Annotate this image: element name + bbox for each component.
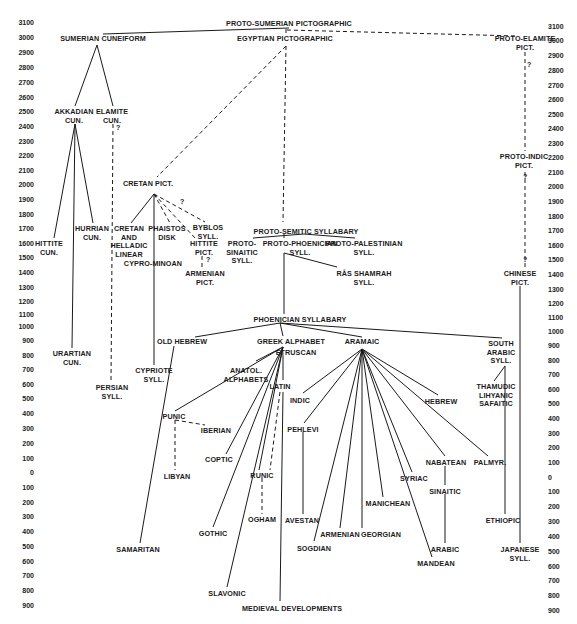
right-axis-tick: 1800 [548, 213, 577, 220]
node-label-line: RUNIC [250, 472, 273, 481]
node-georgian: GEORGIAN [361, 531, 401, 540]
right-axis-tick: 1700 [548, 227, 577, 234]
right-axis-tick: 2500 [548, 111, 577, 118]
right-axis-tick: 600 [548, 386, 577, 393]
left-axis-tick: 800 [4, 352, 34, 359]
left-axis-tick: 900 [4, 337, 34, 344]
genealogy-edges [0, 0, 577, 624]
derivation-line [280, 323, 502, 338]
node-label-line: LINEAR [110, 251, 147, 260]
node-proto-sumerian: PROTO-SUMERIAN PICTOGRAPHIC [226, 20, 352, 29]
right-axis-tick: 2100 [548, 169, 577, 176]
node-runic: RUNIC [250, 472, 273, 481]
right-axis-tick: 1500 [548, 256, 577, 263]
uncertainty-question-mark: ? [523, 256, 527, 263]
node-hurrian: HURRIANCUN. [75, 225, 109, 242]
node-label-line: EGYPTIAN PICTOGRAPHIC [237, 35, 333, 44]
node-phoenician: PHOENICIAN SYLLABARY [254, 316, 347, 325]
left-axis-tick: 2900 [4, 49, 34, 56]
right-axis-tick: 900 [548, 607, 577, 614]
node-label-line: GOTHIC [199, 530, 228, 539]
derivation-line [97, 45, 113, 106]
left-axis-tick: 200 [4, 499, 34, 506]
right-axis-tick: 2900 [548, 52, 577, 59]
node-elamite: ELAMITECUN. [96, 108, 128, 125]
derivation-line [340, 349, 362, 528]
left-axis-tick: 500 [4, 395, 34, 402]
derivation-line [131, 194, 154, 223]
node-coptic: COPTIC [205, 456, 233, 465]
derivation-line [75, 124, 93, 223]
right-axis-tick: 800 [548, 592, 577, 599]
node-palmyr: PALMYR. [474, 459, 507, 468]
node-cretan: CRETAN PICT. [123, 180, 173, 189]
right-axis-tick: 2700 [548, 82, 577, 89]
node-label-line: PROTO-SEMITIC SYLLABARY [254, 228, 359, 237]
left-axis-tick: 200 [4, 440, 34, 447]
left-axis-tick: 2800 [4, 64, 34, 71]
node-label-line: SLAVONIC [208, 590, 245, 599]
node-proto-sinaitic: PROTO-SINAITICSYLL. [226, 240, 258, 266]
node-thamudic: THAMUDICLIHYANICSAFAITIC [476, 383, 515, 409]
node-label-line: PEHLEVI [287, 426, 318, 435]
node-greek: GREEK ALPHABET [257, 338, 325, 347]
derivation-line [362, 349, 432, 557]
left-axis-tick: 1100 [4, 311, 34, 318]
left-axis-tick: 2000 [4, 181, 34, 188]
node-medieval: MEDIEVAL DEVELOPMENTS [242, 605, 342, 614]
node-armenian-pict: ARMENIANPICT. [185, 270, 225, 287]
node-label-line: DISK [148, 234, 185, 243]
node-label-line: SYLL. [500, 555, 539, 564]
left-axis-tick: 900 [4, 602, 34, 609]
node-proto-indic: PROTO-INDICPICT. [500, 153, 549, 170]
derivation-line [54, 124, 75, 238]
left-axis-tick: 400 [4, 410, 34, 417]
node-anatol: ANATOL.ALPHABETS [224, 367, 269, 384]
right-axis-tick: 1400 [548, 271, 577, 278]
derivation-line [494, 366, 505, 381]
left-axis-tick: 1300 [4, 284, 34, 291]
left-axis-tick: 500 [4, 543, 34, 550]
node-proto-elamite: PROTO-ELAMITEPICT. [495, 35, 556, 52]
uncertainty-question-mark: ? [206, 256, 210, 263]
node-label-line: COPTIC [205, 456, 233, 465]
node-label-line: PROTO-SUMERIAN PICTOGRAPHIC [226, 20, 352, 29]
left-axis-tick: 300 [4, 513, 34, 520]
node-latin: LATIN [269, 383, 290, 392]
right-axis-tick: 0 [548, 474, 577, 481]
left-axis-tick: 2200 [4, 152, 34, 159]
derivation-line [362, 349, 438, 395]
derivation-line [314, 349, 362, 541]
node-label-line: SUMERIAN CUNEIFORM [60, 35, 146, 44]
left-axis-tick: 400 [4, 528, 34, 535]
node-cypro-minoan: CYPRO-MINOAN [124, 260, 182, 269]
node-proto-semitic: PROTO-SEMITIC SYLLABARY [254, 228, 359, 237]
node-label-line: SYLL. [96, 393, 129, 402]
right-axis-tick: 2000 [548, 183, 577, 190]
right-axis-tick: 100 [548, 488, 577, 495]
node-cretan-helladic: CRETANANDHELLADICLINEAR [110, 225, 147, 259]
node-label-line: ARAMAIC [345, 338, 380, 347]
node-aramaic: ARAMAIC [345, 338, 380, 347]
right-axis-tick: 1900 [548, 198, 577, 205]
right-axis-tick: 1600 [548, 242, 577, 249]
node-label-line: PHOENICIAN SYLLABARY [254, 316, 347, 325]
right-axis-tick: 700 [548, 577, 577, 584]
node-label-line: PICT. [504, 279, 537, 288]
uncertain-derivation-line [283, 46, 286, 222]
node-label-line: MEDIEVAL DEVELOPMENTS [242, 605, 342, 614]
left-axis-tick: 1200 [4, 298, 34, 305]
right-axis-tick: 2300 [548, 140, 577, 147]
left-axis-tick: 700 [4, 572, 34, 579]
derivation-line [226, 347, 283, 454]
left-axis-tick: 1400 [4, 269, 34, 276]
node-label-line: HEBREW [425, 398, 458, 407]
uncertainty-question-mark: ? [523, 173, 527, 180]
node-persian: PERSIANSYLL. [96, 384, 129, 401]
left-axis-tick: 1700 [4, 225, 34, 232]
node-cypriote: CYPRIOTESYLL. [135, 367, 173, 384]
left-axis-tick: 3100 [4, 19, 34, 26]
right-axis-tick: 500 [548, 400, 577, 407]
node-label-line: ETRUSCAN [276, 349, 317, 358]
right-axis-tick: 700 [548, 371, 577, 378]
